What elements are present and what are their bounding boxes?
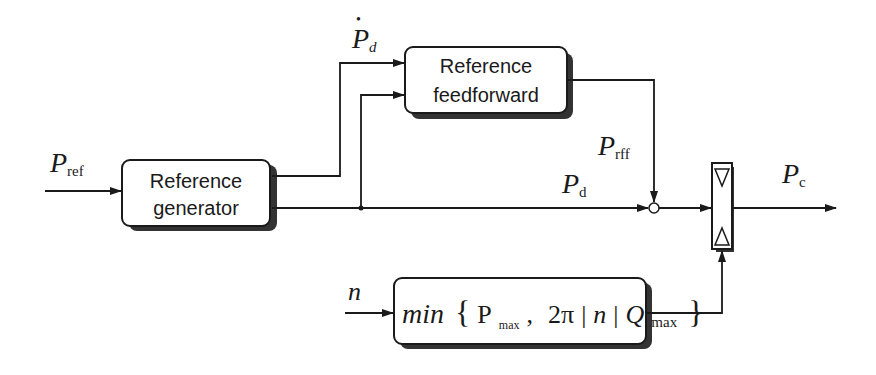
label-pc: Pc — [781, 158, 806, 190]
limiter-n: n — [593, 300, 606, 329]
limiter-comma: , — [527, 300, 534, 329]
svg-text:min { P max: min { P max , 2π | n | Q max } — [402, 294, 704, 335]
limiter-brace-close: } — [688, 294, 703, 330]
summing-junction — [649, 203, 659, 213]
reference-generator-line1: Reference — [150, 170, 242, 192]
label-pd: Pd — [561, 168, 587, 200]
limiter-min: min — [402, 298, 444, 329]
reference-feedforward-block: Reference feedforward — [405, 47, 573, 119]
limiter-two-pi: 2π — [548, 300, 574, 329]
label-n: n — [348, 277, 361, 306]
pd-to-feedforward-arrow — [361, 95, 404, 208]
branch-dot — [359, 206, 364, 211]
limiter-q: Q — [626, 300, 645, 329]
label-pd-dot: Pd — [351, 23, 377, 55]
reference-feedforward-line2: feedforward — [433, 84, 539, 106]
limiter-bar1: | — [581, 300, 586, 329]
limiter-brace-open: { — [455, 294, 470, 330]
selector-block — [712, 163, 734, 252]
label-prff: Prff — [597, 130, 630, 162]
limiter-pmax-sub: max — [499, 318, 520, 332]
pd-dot-arrow — [272, 63, 404, 176]
reference-generator-block: Reference generator — [122, 160, 277, 231]
limiter-to-selector-arrow — [647, 251, 722, 313]
reference-generator-line2: generator — [153, 197, 239, 219]
reference-feedforward-line1: Reference — [440, 55, 532, 77]
label-pref: Pref — [49, 147, 84, 179]
limiter-pmax: P — [477, 300, 491, 329]
block-diagram: Reference generator Reference feedforwar… — [0, 0, 876, 375]
limiter-bar2: | — [613, 300, 618, 329]
limiter-q-sub: max — [651, 314, 677, 330]
